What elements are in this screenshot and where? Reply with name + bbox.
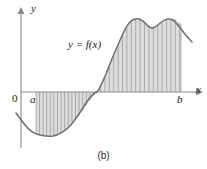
lower-limit-label: a — [30, 94, 36, 105]
origin-label: 0 — [12, 93, 18, 104]
function-plot — [0, 0, 207, 169]
y-axis-label: y — [31, 3, 36, 14]
x-axis-label: x — [196, 84, 201, 95]
upper-limit-label: b — [177, 94, 183, 105]
y-axis — [18, 7, 25, 148]
figure-caption: (b) — [0, 150, 207, 161]
figure-container: y x 0 a b y = f(x) (b) — [0, 0, 207, 169]
positive-area-region — [97, 0, 181, 92]
function-label: y = f(x) — [68, 39, 101, 50]
